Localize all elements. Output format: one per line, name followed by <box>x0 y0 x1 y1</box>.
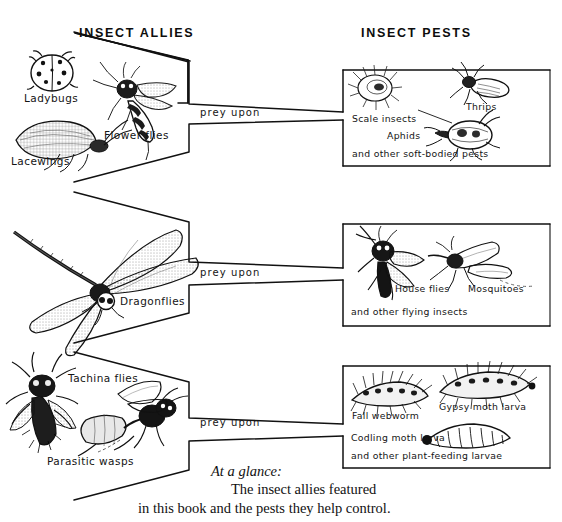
label-parasitic-wasps: Parasitic wasps <box>47 455 134 467</box>
dragonfly-drawing <box>14 230 198 356</box>
label-other-flying-insects: and other flying insects <box>351 306 468 317</box>
scale-insect-drawing <box>348 65 402 110</box>
label-lacewings: Lacewings <box>11 155 70 167</box>
header-insect-pests: INSECT PESTS <box>361 26 472 40</box>
header-insect-allies: INSECT ALLIES <box>79 26 194 40</box>
label-scale-insects: Scale insects <box>352 113 417 124</box>
caption-line-1: At a glance: <box>211 463 282 480</box>
tachina-fly-drawing <box>6 352 78 453</box>
label-dragonflies: Dragonflies <box>120 295 185 307</box>
label-fall-webworm: Fall webworm <box>352 410 419 421</box>
relation-label-row-1: prey upon <box>200 107 261 118</box>
relation-label-row-2: prey upon <box>200 267 261 278</box>
label-ladybugs: Ladybugs <box>24 92 78 104</box>
caption-line-3: in this book and the pests they help con… <box>138 500 391 517</box>
figure-canvas: INSECT ALLIES INSECT PESTS Ladybugs Lace… <box>0 0 562 522</box>
label-aphids: Aphids <box>387 130 420 141</box>
label-flower-flies: Flower flies <box>104 129 169 141</box>
ladybug-drawing <box>27 51 78 91</box>
label-tachina-flies: Tachina flies <box>68 372 138 384</box>
label-thrips: Thrips <box>466 101 497 112</box>
parasitic-wasp-drawing <box>78 381 188 456</box>
mosquito-drawing <box>428 236 534 290</box>
label-gypsy-moth-larva: Gypsy moth larva <box>439 401 526 412</box>
thrips-drawing <box>450 62 510 105</box>
diagram-artwork <box>0 0 562 522</box>
label-mosquitoes: Mosquitoes <box>468 283 524 294</box>
label-other-soft-bodied-pests: and other soft-bodied pests <box>352 148 489 159</box>
label-other-plant-feeding-larvae: and other plant-feeding larvae <box>351 450 502 461</box>
relation-label-row-3: prey upon <box>200 417 261 428</box>
label-codling-moth-larva: Codling moth larva <box>351 432 445 443</box>
caption-line-2: The insect allies featured <box>231 481 376 498</box>
label-house-flies: House flies <box>395 283 449 294</box>
